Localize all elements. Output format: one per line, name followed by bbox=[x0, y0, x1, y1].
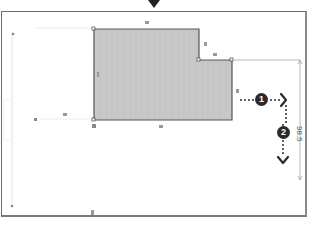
edge-marker bbox=[159, 125, 163, 128]
vertex-handle[interactable] bbox=[92, 27, 95, 30]
step-badge-1[interactable]: 1 bbox=[255, 93, 268, 106]
edge-marker bbox=[145, 21, 149, 24]
edge-marker bbox=[236, 89, 239, 93]
vertex-handle[interactable] bbox=[197, 58, 200, 61]
chevron-down-icon bbox=[278, 157, 288, 163]
vertex-handle[interactable] bbox=[92, 118, 95, 121]
dimension-label[interactable]: 98.5 bbox=[295, 126, 304, 142]
edge-marker bbox=[91, 210, 94, 215]
vertex-handle[interactable] bbox=[230, 58, 233, 61]
step-badge-2[interactable]: 2 bbox=[277, 126, 290, 139]
chevron-right-icon bbox=[281, 94, 286, 106]
edge-marker bbox=[34, 118, 37, 121]
edge-marker bbox=[213, 53, 217, 56]
edge-marker bbox=[97, 72, 99, 77]
drawing-canvas: 1 2 98.5 bbox=[0, 0, 314, 228]
drawing-svg bbox=[0, 0, 314, 228]
floor-shape[interactable] bbox=[94, 29, 232, 120]
edge-marker bbox=[204, 42, 207, 46]
edge-marker bbox=[92, 124, 96, 128]
faint-label-box bbox=[4, 100, 12, 140]
edge-marker bbox=[63, 113, 67, 116]
point-marker bbox=[12, 33, 15, 36]
point-marker bbox=[11, 205, 14, 208]
